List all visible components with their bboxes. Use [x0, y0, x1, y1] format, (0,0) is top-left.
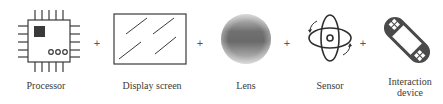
interaction-device-label: Interaction device [388, 76, 431, 98]
sensor-component [303, 12, 357, 66]
display-label: Display screen [122, 80, 181, 91]
plus-sign: + [197, 37, 203, 49]
lens-component [219, 12, 273, 66]
plus-sign: + [284, 37, 290, 49]
gyroscope-sensor-icon [303, 12, 357, 66]
processor-component [14, 6, 80, 76]
interaction-device-label-line1: Interaction [388, 76, 431, 87]
interaction-device-component [377, 10, 437, 70]
plus-sign: + [94, 37, 100, 49]
processor-label: Processor [27, 80, 66, 91]
lens-icon [219, 12, 273, 66]
interaction-device-label-line2: device [388, 87, 431, 98]
plus-sign: + [360, 37, 366, 49]
display-component [112, 12, 188, 66]
lens-label: Lens [236, 80, 255, 91]
sensor-label: Sensor [316, 80, 343, 91]
handheld-game-device-icon [377, 10, 437, 70]
display-screen-icon [112, 12, 188, 66]
processor-chip-icon [14, 6, 80, 76]
